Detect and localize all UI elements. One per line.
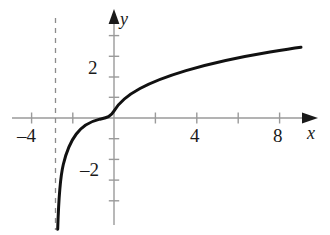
y-tick-label-2: 2 <box>88 58 98 77</box>
figure-container: –4 4 8 2 –2 x y <box>0 0 330 235</box>
x-tick-label-8: 8 <box>273 126 283 145</box>
x-tick-label-4: 4 <box>190 126 200 145</box>
graph-canvas <box>0 0 330 235</box>
x-axis-name: x <box>307 124 315 142</box>
x-tick-label-neg4: –4 <box>17 126 36 145</box>
y-axis-name: y <box>120 10 128 28</box>
y-tick-label-neg2: –2 <box>80 160 99 179</box>
y-axis-arrowhead <box>109 9 120 24</box>
x-axis-arrowhead <box>302 113 318 124</box>
